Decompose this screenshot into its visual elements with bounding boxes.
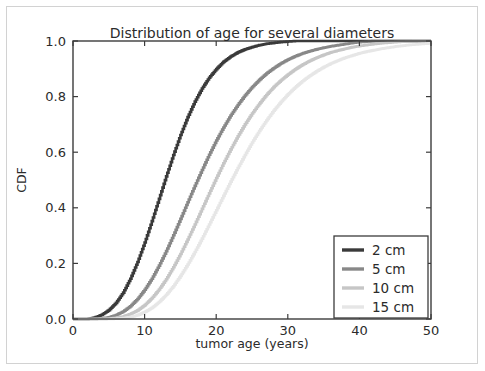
legend-label-15-cm: 15 cm bbox=[372, 299, 414, 315]
y-tick-label: 1.0 bbox=[45, 34, 66, 49]
chart-title: Distribution of age for several diameter… bbox=[110, 25, 395, 41]
y-tick-label: 0.2 bbox=[45, 256, 66, 271]
legend-label-2-cm: 2 cm bbox=[372, 242, 405, 258]
chart-plot: 010203040500.00.20.40.60.81.0 Distributi… bbox=[0, 0, 485, 371]
y-tick-label: 0.4 bbox=[45, 200, 66, 215]
x-tick-label: 40 bbox=[351, 323, 368, 338]
y-tick-label: 0.0 bbox=[45, 312, 66, 327]
x-tick-label: 50 bbox=[423, 323, 440, 338]
figure-canvas: 010203040500.00.20.40.60.81.0 Distributi… bbox=[0, 0, 485, 371]
x-tick-label: 0 bbox=[69, 323, 77, 338]
legend-label-5-cm: 5 cm bbox=[372, 261, 405, 277]
x-tick-label: 10 bbox=[136, 323, 153, 338]
legend-label-10-cm: 10 cm bbox=[372, 280, 414, 296]
x-axis-title: tumor age (years) bbox=[195, 336, 308, 351]
y-axis-title: CDF bbox=[14, 167, 29, 193]
chart-legend[interactable]: 2 cm5 cm10 cm15 cm bbox=[334, 236, 428, 318]
y-tick-label: 0.8 bbox=[45, 89, 66, 104]
y-tick-label: 0.6 bbox=[45, 145, 66, 160]
